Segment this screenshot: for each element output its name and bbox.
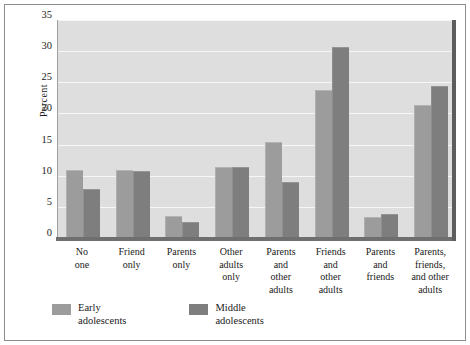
- x-axis-tick: Friendonly: [107, 246, 157, 296]
- legend-label: Early adolescents: [78, 302, 126, 327]
- y-axis-tick: 25: [42, 71, 53, 82]
- x-axis-baseline: [56, 237, 456, 241]
- bar-group: [307, 20, 357, 238]
- bar-group: [158, 20, 208, 238]
- bar: [182, 222, 199, 238]
- legend-label: Middle adolescents: [215, 302, 263, 327]
- y-axis-tick: 30: [42, 40, 53, 51]
- x-axis-tick-labels: NooneFriendonlyParentsonlyOtheradultsonl…: [57, 246, 455, 296]
- legend-item: Middle adolescents: [189, 302, 263, 327]
- y-axis-tick-labels: 05101520253035: [20, 14, 52, 245]
- x-axis-tick: Noone: [57, 246, 107, 296]
- bar: [431, 86, 448, 238]
- chart-legend: Early adolescentsMiddle adolescents: [52, 302, 264, 327]
- bar: [265, 142, 282, 238]
- y-axis-tick: 10: [42, 164, 53, 175]
- x-axis-tick: Otheradultsonly: [206, 246, 256, 296]
- bar-group: [257, 20, 307, 238]
- bar: [165, 216, 182, 238]
- bar-group: [58, 20, 108, 238]
- bar: [381, 214, 398, 238]
- bar: [364, 217, 381, 238]
- bar: [83, 189, 100, 238]
- x-axis-tick: Parentsandotheradults: [256, 246, 306, 296]
- bar: [66, 170, 83, 238]
- legend-item: Early adolescents: [52, 302, 126, 327]
- plot-area: [57, 20, 456, 238]
- bar: [332, 47, 349, 238]
- bar: [215, 167, 232, 238]
- bar: [232, 167, 249, 238]
- bar: [414, 105, 431, 238]
- bar: [133, 171, 150, 238]
- bar-group: [357, 20, 407, 238]
- x-axis-tick: Friendsandotheradults: [306, 246, 356, 296]
- plot-right-edge: [452, 20, 456, 241]
- y-axis-tick: 20: [42, 102, 53, 113]
- y-axis-tick: 5: [47, 195, 52, 206]
- y-axis-tick: 15: [42, 133, 53, 144]
- bar: [282, 182, 299, 238]
- chart-figure: Percent 05101520253035 NooneFriendonlyPa…: [0, 0, 470, 345]
- x-axis-tick: Parents,friends,and otheradults: [405, 246, 455, 296]
- legend-swatch: [52, 304, 71, 315]
- bar-group: [406, 20, 456, 238]
- bar-groups: [58, 20, 456, 238]
- x-axis-tick: Parentsonly: [157, 246, 207, 296]
- x-axis-tick: Parentsandfriends: [356, 246, 406, 296]
- y-axis-tick: 0: [47, 227, 52, 238]
- bar-group: [207, 20, 257, 238]
- bar-group: [108, 20, 158, 238]
- y-axis-tick: 35: [42, 9, 53, 20]
- legend-swatch: [189, 304, 208, 315]
- bar: [315, 90, 332, 238]
- bar: [116, 170, 133, 238]
